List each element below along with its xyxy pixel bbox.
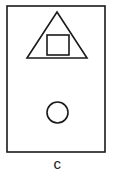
figure-label: c — [0, 154, 115, 174]
geometric-figure-drawing — [0, 0, 115, 179]
figure-container: c — [0, 0, 115, 179]
